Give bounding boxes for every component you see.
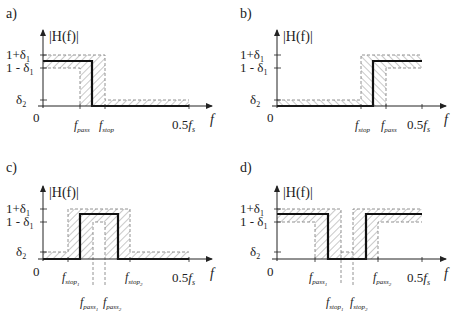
svg-text:fstop1: fstop1 [326, 295, 344, 312]
svg-text:1 - δ1: 1 - δ1 [6, 60, 33, 77]
svg-text:0.5fs: 0.5fs [172, 117, 195, 134]
svg-text:|H(f)|: |H(f)| [49, 29, 79, 45]
svg-text:0: 0 [267, 264, 274, 279]
svg-text:0: 0 [33, 110, 40, 125]
svg-text:fpass2: fpass2 [373, 270, 392, 287]
svg-text:f: f [210, 266, 216, 281]
panel-label: b) [240, 6, 252, 22]
svg-text:0: 0 [267, 110, 274, 125]
panel-b-highpass: b) |H(f)| 1+δ1 1 - δ1 δ2 0 f fstop fpass… [240, 6, 450, 134]
panel-c-bandpass: c) |H(f)| 1+δ1 1 - δ1 δ2 0 f fstop1 fsto… [6, 160, 216, 312]
panel-d-bandstop: d) |H(f)| 1+δ1 1 - δ1 δ2 0 f fpass1 fpas… [240, 160, 450, 312]
svg-text:fstop2: fstop2 [125, 270, 143, 287]
svg-text:fstop: fstop [99, 118, 115, 134]
svg-text:|H(f)|: |H(f)| [283, 29, 313, 45]
svg-text:fpass1: fpass1 [80, 295, 98, 312]
svg-text:fpass: fpass [74, 118, 90, 134]
svg-text:fpass: fpass [381, 118, 397, 134]
svg-text:fstop1: fstop1 [62, 270, 80, 287]
svg-text:δ2: δ2 [250, 244, 260, 261]
svg-text:1 - δ1: 1 - δ1 [6, 214, 33, 231]
panel-label: d) [240, 160, 252, 176]
svg-text:fstop: fstop [355, 118, 371, 134]
svg-text:0: 0 [33, 264, 40, 279]
svg-text:f: f [210, 112, 216, 127]
panel-a-lowpass: a) |H(f)| 1+δ1 1 - δ1 δ2 0 f fpass fstop… [6, 6, 216, 134]
tolerance-region [43, 55, 189, 106]
svg-text:f: f [444, 266, 450, 281]
svg-text:1 - δ1: 1 - δ1 [240, 214, 267, 231]
svg-text:δ2: δ2 [16, 244, 26, 261]
svg-text:fpass2: fpass2 [103, 295, 122, 312]
svg-text:0.5fs: 0.5fs [407, 270, 430, 287]
svg-text:0.5fs: 0.5fs [172, 270, 195, 287]
panel-label: c) [6, 160, 17, 176]
svg-text:1 - δ1: 1 - δ1 [240, 60, 267, 77]
svg-text:f: f [444, 112, 450, 127]
tolerance-region [277, 209, 422, 259]
svg-text:δ2: δ2 [16, 92, 26, 109]
svg-text:|H(f)|: |H(f)| [283, 185, 313, 201]
svg-text:0.5fs: 0.5fs [407, 117, 430, 134]
panel-label: a) [6, 6, 17, 22]
svg-text:δ2: δ2 [250, 92, 260, 109]
filter-spec-diagram: a) |H(f)| 1+δ1 1 - δ1 δ2 0 f fpass fstop… [0, 0, 466, 324]
svg-text:fpass1: fpass1 [309, 270, 327, 287]
tolerance-region [43, 209, 189, 259]
svg-text:|H(f)|: |H(f)| [49, 185, 79, 201]
tolerance-region [277, 55, 422, 106]
svg-text:fstop2: fstop2 [350, 295, 368, 312]
